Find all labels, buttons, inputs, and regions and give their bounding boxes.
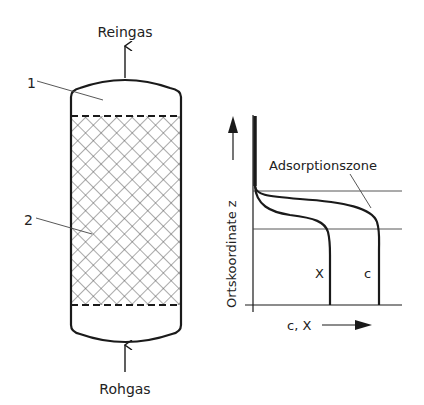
outlet-label: Reingas — [97, 24, 152, 40]
callout-2-label: 2 — [24, 212, 33, 228]
profile-plot: X c Adsorptionszone Ortskoordinate z c, … — [224, 115, 402, 333]
curve-c-label: c — [364, 266, 371, 281]
zone-label: Adsorptionszone — [269, 158, 377, 173]
curve-c — [255, 186, 379, 305]
y-axis-label: Ortskoordinate z — [224, 200, 239, 308]
diagram-canvas: Reingas Rohgas 1 2 X c — [0, 0, 424, 405]
callout-1-label: 1 — [27, 75, 36, 91]
x-axis-label: c, X — [287, 318, 311, 333]
curve-x — [255, 186, 330, 305]
curve-x-label: X — [315, 266, 324, 281]
adsorbent-bed — [71, 116, 181, 305]
adsorber-column: Reingas Rohgas 1 2 — [24, 24, 181, 397]
x-axis-arrow-head — [355, 320, 372, 330]
y-axis-arrow-head — [228, 116, 238, 133]
inlet-label: Rohgas — [99, 381, 150, 397]
